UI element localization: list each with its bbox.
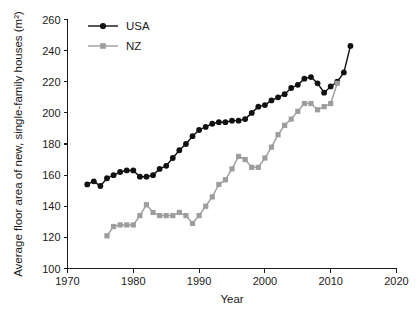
data-point: [282, 91, 288, 97]
data-point: [163, 163, 169, 169]
data-point: [269, 98, 275, 104]
x-tick-label: 1980: [121, 275, 145, 287]
x-tick-label: 1970: [55, 275, 79, 287]
legend-marker: [100, 23, 106, 29]
data-point: [137, 174, 143, 180]
data-point: [328, 101, 333, 106]
data-point: [118, 222, 123, 227]
legend-label: NZ: [126, 40, 141, 52]
data-point: [150, 172, 156, 178]
data-point: [275, 94, 281, 100]
data-point: [170, 213, 175, 218]
data-point: [170, 155, 176, 161]
data-point: [301, 76, 307, 82]
data-point: [315, 80, 321, 86]
data-point: [150, 210, 155, 215]
data-point: [124, 168, 130, 174]
data-point: [111, 224, 116, 229]
data-point: [308, 101, 313, 106]
data-point: [249, 165, 254, 170]
x-axis-ticks: 197019801990200020102020: [55, 269, 408, 287]
data-point: [177, 210, 182, 215]
legend-label: USA: [126, 20, 150, 32]
data-point: [210, 194, 215, 199]
legend-marker: [100, 43, 106, 49]
legend-item-nz[interactable]: NZ: [88, 40, 141, 52]
y-tick-label: 160: [42, 169, 60, 181]
data-point: [236, 118, 242, 124]
data-point: [117, 169, 123, 175]
data-point: [229, 166, 234, 171]
data-point: [104, 233, 109, 238]
data-point: [341, 70, 347, 76]
y-tick-label: 220: [42, 76, 60, 88]
x-tick-label: 2000: [253, 275, 277, 287]
data-point: [249, 110, 255, 116]
y-tick-label: 100: [42, 263, 60, 275]
data-point: [98, 183, 104, 189]
data-point: [84, 182, 90, 188]
data-point: [256, 165, 261, 170]
data-point: [144, 174, 150, 180]
legend-item-usa[interactable]: USA: [88, 20, 150, 32]
data-point: [288, 85, 294, 91]
y-axis-title: Average floor area of new, single-family…: [12, 11, 24, 277]
data-point: [209, 121, 215, 127]
data-point: [216, 119, 222, 125]
data-point: [282, 123, 287, 128]
x-axis-title: Year: [220, 293, 243, 305]
data-point: [183, 213, 188, 218]
data-point: [176, 147, 182, 153]
data-point: [262, 155, 267, 160]
series-usa: [84, 43, 353, 189]
data-point: [275, 132, 280, 137]
data-point: [216, 182, 221, 187]
y-axis-ticks: 100120140160180200220240260: [42, 14, 67, 275]
data-point: [91, 178, 97, 184]
series-line: [107, 83, 337, 236]
data-point: [137, 213, 142, 218]
x-tick-label: 1990: [187, 275, 211, 287]
data-point: [236, 154, 241, 159]
x-tick-label: 2020: [384, 275, 408, 287]
x-tick-label: 2010: [318, 275, 342, 287]
data-point: [104, 175, 110, 181]
data-point: [348, 43, 354, 49]
data-point: [157, 166, 163, 172]
y-tick-label: 260: [42, 14, 60, 26]
data-point: [321, 90, 327, 96]
data-point: [196, 127, 202, 133]
data-point: [223, 119, 229, 125]
data-point: [322, 104, 327, 109]
line-chart: 100120140160180200220240260 197019801990…: [0, 0, 418, 316]
data-series-layer: [84, 43, 353, 238]
data-point: [229, 118, 235, 124]
data-point: [223, 177, 228, 182]
data-point: [269, 145, 274, 150]
data-point: [295, 109, 300, 114]
data-point: [308, 74, 314, 80]
series-nz: [104, 81, 340, 239]
y-tick-label: 140: [42, 200, 60, 212]
series-line: [87, 46, 350, 186]
chart-figure: 100120140160180200220240260 197019801990…: [0, 0, 418, 316]
data-point: [295, 82, 301, 88]
y-tick-label: 180: [42, 138, 60, 150]
data-point: [328, 84, 334, 90]
data-point: [183, 141, 189, 147]
data-point: [203, 204, 208, 209]
data-point: [124, 222, 129, 227]
data-point: [131, 222, 136, 227]
data-point: [262, 102, 268, 108]
data-point: [157, 213, 162, 218]
data-point: [243, 157, 248, 162]
data-point: [242, 116, 248, 122]
chart-legend: USANZ: [88, 20, 150, 52]
y-tick-label: 240: [42, 45, 60, 57]
data-point: [164, 213, 169, 218]
data-point: [197, 213, 202, 218]
y-tick-label: 200: [42, 107, 60, 119]
data-point: [335, 81, 340, 86]
data-point: [190, 133, 196, 139]
y-tick-label: 120: [42, 231, 60, 243]
